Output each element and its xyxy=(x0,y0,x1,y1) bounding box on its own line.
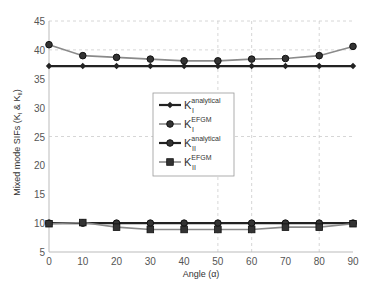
y-tick-label: 35 xyxy=(34,74,46,85)
circle-marker xyxy=(113,54,120,61)
y-tick-label: 25 xyxy=(34,132,46,143)
circle-marker xyxy=(147,220,154,227)
x-tick-label: 90 xyxy=(347,256,359,267)
y-tick-label: 10 xyxy=(34,218,46,229)
circle-marker xyxy=(181,220,188,227)
square-marker xyxy=(46,220,53,227)
diamond-marker xyxy=(46,63,52,69)
circle-marker xyxy=(282,55,289,62)
y-tick-label: 40 xyxy=(34,45,46,56)
circle-marker xyxy=(79,52,86,59)
y-tick-label: 5 xyxy=(39,247,45,258)
square-marker xyxy=(350,220,357,227)
square-marker xyxy=(282,224,289,231)
series-k-ii-efgm xyxy=(46,219,357,233)
square-marker xyxy=(316,224,323,231)
circle-marker xyxy=(350,43,357,50)
square-marker xyxy=(79,219,86,226)
x-tick-label: 0 xyxy=(46,256,52,267)
diamond-marker xyxy=(316,63,322,69)
circle-marker xyxy=(147,56,154,63)
diamond-marker xyxy=(113,63,119,69)
x-tick-label: 80 xyxy=(314,256,326,267)
x-tick-label: 30 xyxy=(145,256,157,267)
x-tick-label: 10 xyxy=(77,256,89,267)
y-tick-label: 20 xyxy=(34,160,46,171)
square-marker xyxy=(147,226,154,233)
circle-marker xyxy=(248,220,255,227)
line-chart: 510152025303540450102030405060708090 Kan… xyxy=(0,0,374,290)
square-marker xyxy=(167,159,174,166)
y-axis-label: Mixed mode SIFs (KI & KII) xyxy=(12,89,23,196)
circle-marker xyxy=(167,140,174,147)
diamond-marker xyxy=(350,63,356,69)
y-tick-label: 45 xyxy=(34,16,46,27)
square-marker xyxy=(113,224,120,231)
series-line xyxy=(49,45,353,61)
circle-marker xyxy=(46,41,53,48)
circle-marker xyxy=(248,56,255,63)
x-axis-label: Angle (α) xyxy=(183,269,220,279)
x-tick-label: 40 xyxy=(179,256,191,267)
series-k-i-efgm xyxy=(46,41,357,64)
circle-marker xyxy=(215,58,222,65)
y-tick-label: 30 xyxy=(34,103,46,114)
circle-marker xyxy=(215,220,222,227)
diamond-marker xyxy=(248,63,254,69)
circle-marker xyxy=(181,58,188,65)
circle-marker xyxy=(316,52,323,59)
square-marker xyxy=(248,226,255,233)
square-marker xyxy=(215,226,222,233)
diamond-marker xyxy=(147,63,153,69)
x-tick-label: 20 xyxy=(111,256,123,267)
y-tick-label: 15 xyxy=(34,189,46,200)
diamond-marker xyxy=(80,63,86,69)
circle-marker xyxy=(167,121,174,128)
x-tick-label: 50 xyxy=(212,256,224,267)
x-tick-label: 70 xyxy=(280,256,292,267)
x-tick-label: 60 xyxy=(246,256,258,267)
legend: KanalyticalIKEFGMIKanalyticalIIKEFGMII xyxy=(153,93,234,176)
series-k-i-analytical xyxy=(46,63,356,69)
diamond-marker xyxy=(282,63,288,69)
square-marker xyxy=(181,226,188,233)
